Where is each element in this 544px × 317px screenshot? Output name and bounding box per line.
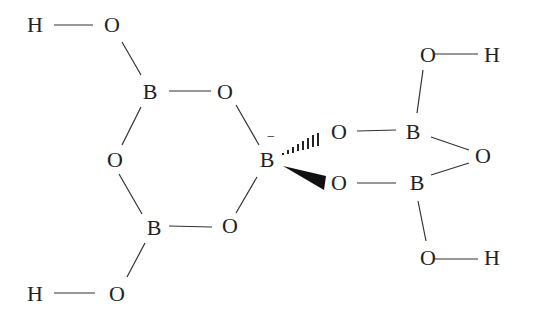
atom-H: H bbox=[484, 44, 500, 66]
atom-O: O bbox=[107, 149, 123, 171]
atom-O: O bbox=[222, 215, 238, 237]
atom-O: O bbox=[475, 145, 491, 167]
atom-O: O bbox=[420, 44, 436, 66]
atom-O: O bbox=[217, 81, 233, 103]
atom-H: H bbox=[27, 14, 43, 36]
bond bbox=[431, 137, 469, 150]
bond bbox=[127, 243, 145, 277]
bond bbox=[417, 70, 423, 113]
bond bbox=[357, 130, 396, 131]
borate-structure-diagram: H O B O O B B O H O O B O H O O B O H − bbox=[0, 0, 544, 317]
bond bbox=[122, 107, 141, 145]
atom-B: B bbox=[410, 172, 425, 194]
atom-B: B bbox=[406, 121, 421, 143]
atom-H: H bbox=[27, 283, 43, 305]
bond bbox=[169, 226, 212, 227]
bond bbox=[119, 174, 142, 214]
negative-charge-label: − bbox=[267, 129, 275, 145]
solid-wedge-bond bbox=[283, 166, 326, 190]
bond bbox=[418, 201, 426, 241]
atom-H: H bbox=[484, 247, 500, 269]
atom-B: B bbox=[143, 81, 158, 103]
bond bbox=[236, 177, 257, 213]
atom-O: O bbox=[331, 172, 347, 194]
atom-B: B bbox=[147, 217, 162, 239]
bond bbox=[431, 163, 469, 175]
atom-O: O bbox=[420, 247, 436, 269]
hashed-wedge-bond bbox=[283, 133, 318, 155]
bond bbox=[236, 105, 259, 145]
atom-O: O bbox=[104, 14, 120, 36]
atom-B-central: B bbox=[260, 149, 275, 171]
bond bbox=[122, 42, 141, 75]
atom-O: O bbox=[331, 121, 347, 143]
atom-O: O bbox=[109, 283, 125, 305]
